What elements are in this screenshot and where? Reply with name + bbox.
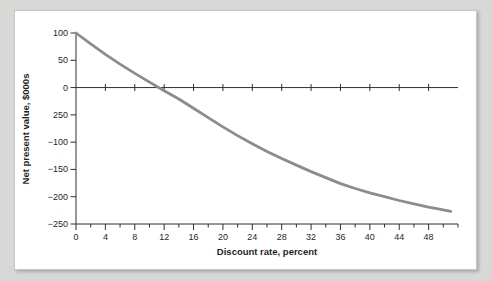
x-tick-label: 40 (365, 232, 375, 242)
y-axis-title: Net present value, $000s (20, 74, 31, 185)
x-tick-label: 16 (189, 232, 199, 242)
x-tick-label: 32 (306, 232, 316, 242)
screenshot-root: { "figure": { "description": "Net presen… (0, 0, 492, 281)
x-tick-label: 8 (132, 232, 137, 242)
x-tick-label: 36 (335, 232, 345, 242)
y-tick-label: 250 (53, 110, 68, 120)
x-tick-label: 12 (159, 232, 169, 242)
x-tick-label: 44 (394, 232, 404, 242)
y-tick-label: −250 (48, 219, 68, 229)
y-tick-label: −100 (48, 137, 68, 147)
chart-card: 100500250−100−150−200−250048121620242832… (14, 10, 477, 270)
x-tick-label: 4 (103, 232, 108, 242)
x-tick-label: 28 (277, 232, 287, 242)
x-tick-label: 0 (73, 232, 78, 242)
y-tick-label: −200 (48, 192, 68, 202)
y-tick-label: 100 (53, 28, 68, 38)
x-tick-label: 20 (218, 232, 228, 242)
npv-profile-chart: 100500250−100−150−200−250048121620242832… (15, 11, 476, 269)
axis-tick-labels: 100500250−100−150−200−250048121620242832… (48, 28, 434, 242)
x-tick-label: 48 (424, 232, 434, 242)
x-axis-title: Discount rate, percent (217, 246, 318, 257)
npv-curve-path (76, 33, 451, 211)
y-tick-label: 50 (58, 55, 68, 65)
y-tick-label: 0 (63, 83, 68, 93)
x-tick-label: 24 (247, 232, 257, 242)
npv-curve (76, 33, 451, 211)
y-tick-label: −150 (48, 164, 68, 174)
